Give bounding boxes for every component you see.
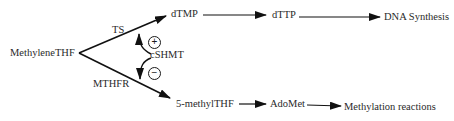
- enzyme-ts-label: TS: [112, 25, 124, 36]
- node-5-methylthf: 5-methylTHF: [176, 99, 234, 110]
- enzyme-cshmt-label: cSHMT: [150, 50, 184, 61]
- node-adomet: AdoMet: [270, 99, 305, 110]
- node-dtmp: dTMP: [171, 9, 198, 20]
- enzyme-mthfr-label: MTHFR: [93, 79, 129, 90]
- positive-regulation-icon: +: [148, 36, 161, 49]
- pathway-diagram: MethyleneTHF TS MTHFR cSHMT + − dTMP dTT…: [0, 0, 454, 121]
- node-dttp: dTTP: [272, 10, 296, 21]
- negative-regulation-icon: −: [148, 67, 161, 80]
- node-dna-synthesis: DNA Synthesis: [384, 12, 449, 23]
- node-methylene-thf: MethyleneTHF: [10, 48, 75, 59]
- node-methylation-reactions: Methylation reactions: [344, 102, 436, 113]
- arrow-adomet-methylation: [307, 105, 341, 106]
